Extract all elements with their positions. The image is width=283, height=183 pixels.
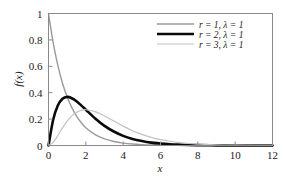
x-tick-label: 8 (195, 149, 201, 161)
legend-label-1: r = 1, λ = 1 (199, 20, 243, 30)
x-tick-label: 2 (83, 149, 89, 161)
legend-label-3: r = 3, λ = 1 (199, 40, 243, 50)
x-tick-label: 6 (158, 149, 164, 161)
figure-container: 024681012 00.20.40.60.81 x f(x) r = 1, λ… (0, 0, 283, 183)
y-tick-label: 0.4 (29, 87, 43, 99)
x-tick-label: 0 (46, 149, 52, 161)
gamma-pdf-chart: 024681012 00.20.40.60.81 x f(x) r = 1, λ… (0, 0, 283, 183)
x-tick-label: 10 (230, 149, 242, 161)
y-axis-title: f(x) (12, 71, 25, 87)
x-axis-title: x (157, 162, 163, 174)
x-tick-label: 12 (267, 149, 278, 161)
y-tick-label: 0.6 (29, 60, 43, 72)
y-tick-label: 0 (37, 140, 43, 152)
x-tick-label: 4 (120, 149, 126, 161)
y-tick-label: 1 (37, 8, 43, 20)
y-tick-label: 0.2 (29, 113, 43, 125)
legend-label-2: r = 2, λ = 1 (199, 30, 243, 40)
y-tick-label: 0.8 (29, 34, 43, 46)
